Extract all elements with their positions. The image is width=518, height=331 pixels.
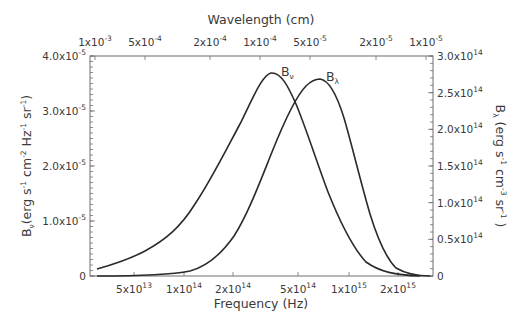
x-axis-title: Frequency (Hz) xyxy=(214,296,308,311)
x-tick-label: 5x1013 xyxy=(116,281,152,295)
y-axis-left-title: Bν(erg s-1 cm-2 Hz-1 sr-1) xyxy=(19,95,36,237)
y-left-tick-label: 0 xyxy=(79,270,86,282)
y-right-tick-label: 0 xyxy=(437,270,444,282)
x2-tick-label: 5x10-5 xyxy=(293,34,327,48)
y-axis-left-ticks: 01.0x10-52.0x10-53.0x10-54.0x10-5 xyxy=(42,48,95,282)
y-axis-right-ticks: 00.5x10141.0x10141.5x10142.0x10142.5x101… xyxy=(428,48,483,282)
curve-label-b-nu: Bν xyxy=(281,64,294,81)
x-tick-label: 1x1015 xyxy=(331,281,367,295)
y-axis-right-title: Bλ (erg s-1 cm-3 sr-1 ) xyxy=(491,105,508,228)
y-right-tick-label: 2.5x1014 xyxy=(437,85,483,99)
svg-text:Bν(erg s-1 cm-2 Hz-1 sr-1): Bν(erg s-1 cm-2 Hz-1 sr-1) xyxy=(19,95,36,237)
svg-text:Bλ (erg s-1 cm-3 sr-1 ): Bλ (erg s-1 cm-3 sr-1 ) xyxy=(491,105,508,228)
curve-label-b-lambda: Bλ xyxy=(326,69,340,86)
x2-tick-label: 1x10-5 xyxy=(409,34,443,48)
curve-b-nu xyxy=(97,73,420,276)
plot-frame xyxy=(90,56,433,276)
x2-tick-label: 1x10-4 xyxy=(243,34,277,48)
y-right-tick-label: 0.5x1014 xyxy=(437,231,483,245)
x2-tick-label: 2x10-5 xyxy=(359,34,393,48)
blackbody-spectrum-chart: 5x10131x10142x10145x10141x10152x1015 1x1… xyxy=(0,0,518,331)
x-tick-label: 2x1014 xyxy=(215,281,251,295)
y-right-tick-label: 1.5x1014 xyxy=(437,158,483,172)
x2-tick-label: 2x10-4 xyxy=(193,34,227,48)
y-right-tick-label: 3.0x1014 xyxy=(437,48,483,62)
x2-axis-title: Wavelength (cm) xyxy=(208,12,315,27)
x-tick-label: 1x1014 xyxy=(166,281,202,295)
y-right-tick-label: 1.0x1014 xyxy=(437,195,483,209)
curve-b-lambda xyxy=(97,79,430,276)
y-right-tick-label: 2.0x1014 xyxy=(437,121,483,135)
y-left-tick-label: 1.0x10-5 xyxy=(42,213,86,227)
x-tick-label: 2x1015 xyxy=(380,281,416,295)
y-left-tick-label: 2.0x10-5 xyxy=(42,158,86,172)
x-tick-label: 5x1014 xyxy=(280,281,316,295)
x-axis-frequency-ticks: 5x10131x10142x10145x10141x10152x1015 xyxy=(116,272,416,295)
y-left-tick-label: 4.0x10-5 xyxy=(42,48,86,62)
x2-tick-label: 5x10-4 xyxy=(128,34,162,48)
x2-tick-label: 1x10-3 xyxy=(78,34,112,48)
y-left-tick-label: 3.0x10-5 xyxy=(42,103,86,117)
